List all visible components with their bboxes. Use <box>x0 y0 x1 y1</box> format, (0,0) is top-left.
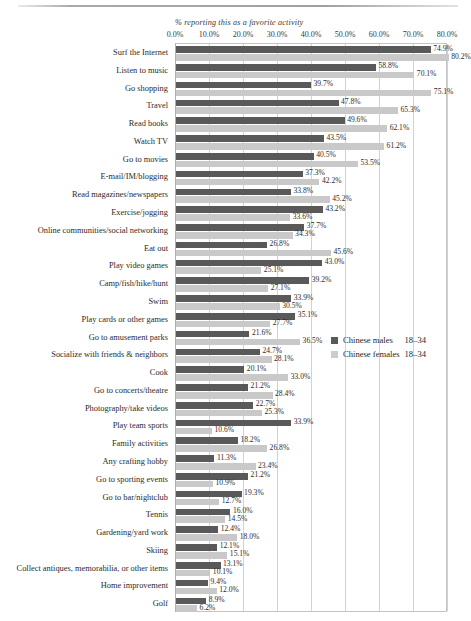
chart-row: 33.9%10.6% <box>176 417 448 436</box>
bar-female[interactable] <box>176 179 319 186</box>
bar-male[interactable] <box>176 437 238 444</box>
chart-row: 20.1%33.0% <box>176 364 448 383</box>
bar-female[interactable] <box>176 285 268 292</box>
bar-value-label-female: 70.1% <box>414 70 436 78</box>
bar-female[interactable] <box>176 107 398 114</box>
chart-row: 12.1%15.1% <box>176 542 448 561</box>
bar-female[interactable] <box>176 125 387 132</box>
bar-male[interactable] <box>176 135 324 142</box>
category-label: Photography/take videos <box>0 399 172 418</box>
legend-age-range: 18–34 <box>405 335 426 345</box>
category-label: Go to bar/nightclub <box>0 488 172 507</box>
category-label: Socialize with friends & neighbors <box>0 345 172 364</box>
bar-value-label-female: 12.7% <box>219 497 241 505</box>
bar-female[interactable] <box>176 267 261 274</box>
chart-row: 37.7%34.3% <box>176 222 448 241</box>
category-label-text: Play team sports <box>113 420 168 431</box>
bar-male[interactable] <box>176 117 345 124</box>
bar-female[interactable] <box>176 196 330 203</box>
bar-male[interactable] <box>176 402 253 409</box>
bar-female[interactable] <box>176 588 217 595</box>
category-label-text: E-mail/IM/blogging <box>101 171 168 182</box>
bar-female[interactable] <box>176 499 219 506</box>
bar-female[interactable] <box>176 605 197 612</box>
category-label: Read magazines/newspapers <box>0 185 172 204</box>
category-label: Collect antiques, memorabilia, or other … <box>0 559 172 578</box>
bar-male[interactable] <box>176 100 339 107</box>
bar-value-label-female: 14.5% <box>225 515 247 523</box>
bar-female[interactable] <box>176 356 272 363</box>
bar-male[interactable] <box>176 349 260 356</box>
bar-male[interactable] <box>176 544 217 551</box>
bar-male[interactable] <box>176 153 314 160</box>
bar-male[interactable] <box>176 384 248 391</box>
bar-male[interactable] <box>176 82 311 89</box>
bar-female[interactable] <box>176 428 212 435</box>
bar-male[interactable] <box>176 189 291 196</box>
bar-female[interactable] <box>176 570 210 577</box>
chart-title: % reporting this as a favorite activity <box>175 18 450 27</box>
category-label: Go to movies <box>0 150 172 169</box>
bar-female[interactable] <box>176 303 280 310</box>
legend-entry-female[interactable]: Chinese females18–34 <box>331 347 426 361</box>
chart-row: 33.8%45.2% <box>176 186 448 205</box>
bar-male[interactable] <box>176 580 208 587</box>
bar-female[interactable] <box>176 392 273 399</box>
category-label: Travel <box>0 96 172 115</box>
bar-female[interactable] <box>176 339 300 346</box>
bar-male[interactable] <box>176 224 304 231</box>
bar-female[interactable] <box>176 463 256 470</box>
bar-female[interactable] <box>176 90 431 97</box>
bar-value-label-female: 45.2% <box>330 195 352 203</box>
bar-female[interactable] <box>176 72 414 79</box>
bar-female[interactable] <box>176 321 270 328</box>
bar-female[interactable] <box>176 214 290 221</box>
bar-male[interactable] <box>176 295 291 302</box>
x-axis-tick-40: 40.0% <box>301 30 322 39</box>
category-label: Watch TV <box>0 132 172 151</box>
legend-entry-male[interactable]: Chinese males18–34 <box>331 333 426 347</box>
chart-row: 12.4%18.0% <box>176 524 448 543</box>
bar-male[interactable] <box>176 366 244 373</box>
chart-row: 8.9%6.2% <box>176 595 448 614</box>
bar-female[interactable] <box>176 445 267 452</box>
bar-male[interactable] <box>176 331 249 338</box>
category-label-text: Read books <box>129 118 168 129</box>
category-label-text: Home improvement <box>101 580 168 591</box>
bar-value-label-male: 39.2% <box>309 276 331 284</box>
bar-female[interactable] <box>176 161 358 168</box>
bar-female[interactable] <box>176 232 293 239</box>
bar-female[interactable] <box>176 143 384 150</box>
bar-value-label-male: 21.6% <box>249 329 271 337</box>
category-label-text: Swim <box>148 296 168 307</box>
bar-value-label-female: 25.1% <box>261 266 283 274</box>
chart-row: 37.3%42.2% <box>176 168 448 187</box>
bar-male[interactable] <box>176 473 248 480</box>
bar-female[interactable] <box>176 516 225 523</box>
x-axis-tick-10: 10.0% <box>199 30 220 39</box>
bar-male[interactable] <box>176 242 267 249</box>
plot-area: 74.9%80.2%58.8%70.1%39.7%75.1%47.8%65.3%… <box>175 43 447 612</box>
bar-female[interactable] <box>176 481 213 488</box>
bar-female[interactable] <box>176 534 237 541</box>
bar-male[interactable] <box>176 64 376 71</box>
bar-male[interactable] <box>176 46 431 53</box>
bar-male[interactable] <box>176 509 230 516</box>
bar-value-label-female: 10.6% <box>212 426 234 434</box>
chart-row: 49.6%62.1% <box>176 115 448 134</box>
chart-row: 13.1%10.1% <box>176 560 448 579</box>
bar-female[interactable] <box>176 54 449 61</box>
bar-female[interactable] <box>176 410 262 417</box>
bar-female[interactable] <box>176 552 227 559</box>
bar-female[interactable] <box>176 374 288 381</box>
bar-male[interactable] <box>176 526 218 533</box>
bar-male[interactable] <box>176 260 322 267</box>
bar-female[interactable] <box>176 250 331 257</box>
category-label: Online communities/social networking <box>0 221 172 240</box>
chart-row: 16.0%14.5% <box>176 506 448 525</box>
bar-value-label-female: 65.3% <box>398 106 420 114</box>
bar-male[interactable] <box>176 455 214 462</box>
bar-value-label-male: 33.9% <box>291 418 313 426</box>
bar-male[interactable] <box>176 171 303 178</box>
